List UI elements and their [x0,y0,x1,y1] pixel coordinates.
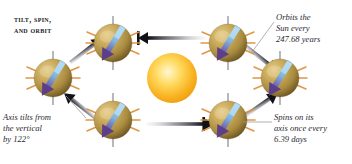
planet-top-right [201,16,255,70]
callout-rotation-period: Spins on its axis once every 6.39 days [274,112,352,146]
leader-line-orbit [252,22,274,52]
figure-title-line2: and orbit [14,25,124,36]
orbit-arrow-top [137,31,206,45]
sun [147,53,197,103]
orbit-arrow-bottom [146,117,214,131]
figure-title: Tilt, spin, and orbit [14,14,124,36]
callout-axial-tilt: Axis tilts from the vertical by 122° [3,112,89,146]
planet-bottom-left [86,93,140,147]
diagram-canvas: Tilt, spin, and orbit Orbits the Sun eve… [0,0,352,164]
callout-orbit-period: Orbits the Sun every 247.68 years [276,12,352,46]
planet-bottom-right [201,93,255,147]
figure-title-line1: Tilt, spin, [14,14,124,25]
